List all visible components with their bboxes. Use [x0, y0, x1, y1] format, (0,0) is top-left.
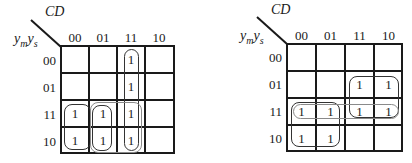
- row-variables: ymys: [14, 31, 38, 49]
- row-label-01: 01: [34, 80, 56, 96]
- karnaugh-map-2: CD ymys 00 01 11 10 00 01 11 10 1 1 1 1 …: [212, 0, 412, 163]
- column-variables: CD: [271, 2, 290, 18]
- group-row-11: [293, 104, 399, 119]
- row-label-11: 11: [34, 107, 56, 123]
- row-label-10: 10: [34, 134, 56, 150]
- row-label-10: 10: [260, 131, 282, 147]
- row-label-00: 00: [260, 50, 282, 66]
- column-label-11: 11: [345, 28, 374, 44]
- column-label-10: 10: [374, 28, 403, 44]
- column-variables: CD: [45, 4, 64, 20]
- row-label-11: 11: [260, 104, 282, 120]
- row-label-00: 00: [34, 53, 56, 69]
- row-label-01: 01: [260, 77, 282, 93]
- column-label-00: 00: [287, 28, 316, 44]
- column-label-01: 01: [316, 28, 345, 44]
- column-label-01: 01: [89, 30, 117, 46]
- column-label-11: 11: [117, 30, 145, 46]
- group-col-00-rows-11-10: [64, 104, 91, 150]
- group-cols-01-11-rows-11-10: [90, 102, 142, 153]
- column-label-00: 00: [61, 30, 89, 46]
- column-label-10: 10: [145, 30, 173, 46]
- karnaugh-map-1: CD ymys 00 01 11 10 00 01 11 10 1 1 1 1 …: [0, 0, 200, 163]
- row-variables: ymys: [240, 28, 264, 46]
